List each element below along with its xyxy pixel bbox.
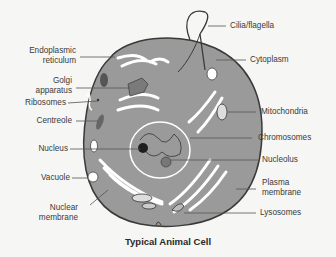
mitochondrion: [142, 203, 156, 209]
nucleus: [130, 122, 190, 178]
label-centreole: Centreole: [10, 116, 72, 126]
label-vacuole: Vacuole: [10, 173, 70, 183]
label-golgi-1: Golgi: [14, 76, 72, 86]
label-plasma-membrane-2: membrane: [262, 188, 301, 198]
chromatin-dark: [138, 143, 148, 153]
label-mitochondria: Mitochondria: [261, 107, 308, 117]
mitochondrion: [132, 194, 152, 202]
label-cilia-flagella: Cilia/flagella: [230, 21, 274, 31]
mitochondrion: [217, 104, 227, 120]
label-nuclear-membrane-1: Nuclear: [10, 203, 78, 213]
label-plasma-membrane-1: Plasma: [262, 178, 289, 188]
mitochondrion: [100, 73, 108, 87]
label-golgi-2: apparatus: [14, 86, 72, 96]
label-nucleolus: Nucleolus: [262, 155, 298, 165]
label-lysosomes: Lysosomes: [260, 208, 301, 218]
vacuole: [91, 140, 98, 152]
label-endoplasmic-reticulum-1: Endoplasmic: [14, 46, 76, 56]
vacuole: [207, 68, 217, 80]
label-chromosomes: Chromosomes: [258, 133, 311, 143]
nucleolus: [161, 157, 171, 167]
diagram-title: Typical Animal Cell: [0, 236, 336, 247]
label-cytoplasm: Cytoplasm: [250, 55, 289, 65]
vacuole: [88, 172, 98, 182]
label-ribosomes: Ribosomes: [10, 98, 66, 108]
label-nucleus: Nucleus: [10, 144, 68, 154]
label-nuclear-membrane-2: membrane: [10, 213, 78, 223]
label-endoplasmic-reticulum-2: reticulum: [14, 56, 76, 66]
